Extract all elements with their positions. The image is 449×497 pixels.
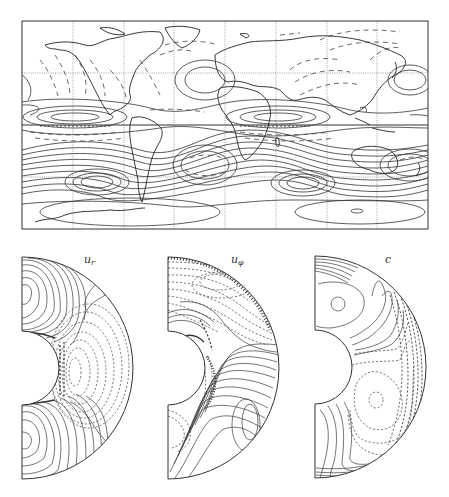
- panel-c: [315, 256, 426, 478]
- c-dashed-contours: [348, 292, 422, 455]
- label-ur: ur: [84, 254, 95, 267]
- c-shell-outline: [315, 256, 426, 478]
- figure: ur uφ c: [0, 0, 449, 497]
- label-uphi: uφ: [231, 254, 244, 267]
- hemisphere-plots: [0, 0, 449, 497]
- ur-north-solid-contours: [22, 258, 98, 342]
- label-c-main: c: [385, 253, 391, 266]
- ur-central-dashed-contours: [49, 304, 129, 428]
- label-c: c: [385, 254, 391, 267]
- panel-ur: [22, 257, 133, 480]
- label-ur-sub: r: [91, 258, 95, 267]
- panel-uphi: [168, 257, 279, 479]
- label-uphi-sub: φ: [238, 258, 244, 267]
- uphi-solid-contours: [168, 302, 278, 478]
